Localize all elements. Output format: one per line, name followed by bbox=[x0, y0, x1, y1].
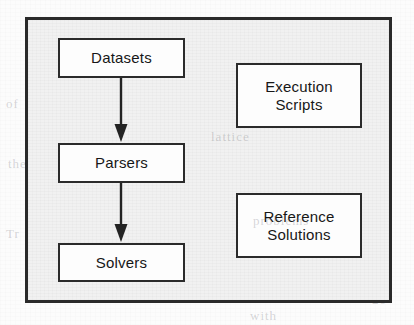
ghost-text: with bbox=[250, 308, 277, 324]
node-execution-scripts-line2: Scripts bbox=[265, 96, 333, 114]
diagram-canvas: in the of the Tr 20 with Datasets Parser… bbox=[0, 0, 414, 325]
ghost-text: lattice bbox=[211, 129, 250, 145]
node-datasets-label: Datasets bbox=[91, 49, 152, 67]
node-solvers[interactable]: Solvers bbox=[58, 243, 185, 282]
ghost-text: problems bbox=[253, 213, 309, 229]
ghost-text: Tr bbox=[6, 226, 20, 242]
node-parsers[interactable]: Parsers bbox=[58, 143, 185, 183]
ghost-text: of bbox=[6, 96, 19, 112]
node-execution-scripts[interactable]: Execution Scripts bbox=[236, 63, 362, 128]
node-execution-scripts-label: Execution Scripts bbox=[265, 78, 333, 113]
arrow-parsers-to-solvers bbox=[113, 183, 129, 243]
node-solvers-label: Solvers bbox=[96, 254, 147, 272]
node-execution-scripts-line1: Execution bbox=[265, 78, 333, 96]
arrow-datasets-to-parsers bbox=[113, 78, 129, 143]
diagram-frame: Datasets Parsers Solvers Execution Scrip… bbox=[25, 17, 392, 303]
node-datasets[interactable]: Datasets bbox=[58, 38, 185, 78]
node-parsers-label: Parsers bbox=[95, 154, 148, 172]
